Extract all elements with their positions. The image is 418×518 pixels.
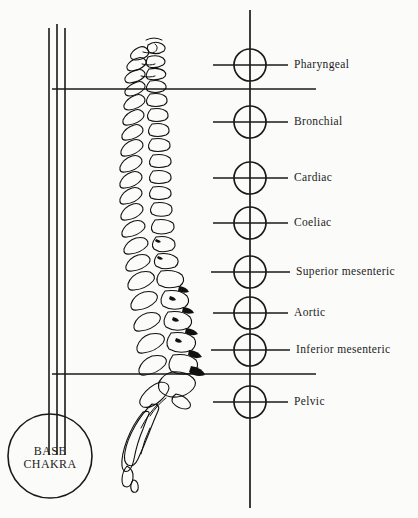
plexus-label-superior-mesenteric: Superior mesenteric — [296, 266, 395, 278]
plexus-label-aortic: Aortic — [294, 307, 325, 319]
anatomical-diagram-page: Pharyngeal Bronchial Cardiac Coeliac Sup… — [0, 0, 418, 518]
boundary-lines-group — [52, 89, 316, 374]
spine-plexus-figure — [0, 0, 418, 518]
spinous-process-accents — [155, 239, 205, 376]
plexus-label-pelvic: Pelvic — [294, 396, 325, 408]
sacrum — [140, 372, 196, 409]
plexus-label-cardiac: Cardiac — [294, 172, 332, 184]
thoracic-vertebrae — [120, 93, 178, 271]
sacral-connective-lines — [141, 398, 166, 454]
base-chakra-label-line1: BASE — [0, 445, 100, 458]
lumbar-vertebrae — [128, 271, 198, 376]
coccyx — [122, 404, 159, 492]
base-chakra-label: BASE CHAKRA — [0, 445, 100, 472]
plexus-label-inferior-mesenteric: Inferior mesenteric — [296, 344, 390, 356]
cervical-vertebrae — [125, 42, 166, 96]
plexus-label-bronchial: Bronchial — [294, 116, 343, 128]
plexus-label-coeliac: Coeliac — [294, 217, 332, 229]
plexus-label-pharyngeal: Pharyngeal — [294, 59, 349, 71]
vertebral-column-illustration — [120, 38, 205, 492]
base-chakra-label-line2: CHAKRA — [0, 458, 100, 471]
